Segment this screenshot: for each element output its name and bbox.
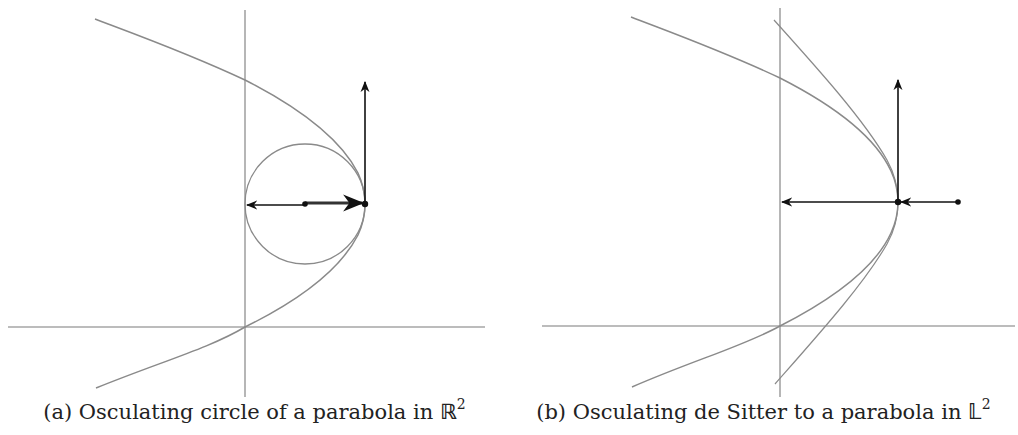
panel-a-diagram xyxy=(0,0,509,400)
center-point xyxy=(955,199,961,205)
panel-b: (b) Osculating de Sitter to a parabola i… xyxy=(509,0,1018,435)
caption-a-text: (a) Osculating circle of a parabola in xyxy=(43,400,440,424)
caption-b-text: (b) Osculating de Sitter to a parabola i… xyxy=(536,400,968,424)
caption-a: (a) Osculating circle of a parabola in ℝ… xyxy=(0,398,509,424)
center-point xyxy=(302,201,308,207)
caption-b-space: 𝕃 xyxy=(968,400,982,424)
caption-b: (b) Osculating de Sitter to a parabola i… xyxy=(509,398,1018,424)
panel-a: (a) Osculating circle of a parabola in ℝ… xyxy=(0,0,509,435)
caption-a-exponent: 2 xyxy=(457,396,466,412)
panel-b-diagram xyxy=(509,0,1018,400)
caption-a-space: ℝ xyxy=(440,400,457,424)
vertex-point xyxy=(895,199,901,205)
vertex-point xyxy=(362,201,368,207)
caption-b-exponent: 2 xyxy=(982,396,991,412)
